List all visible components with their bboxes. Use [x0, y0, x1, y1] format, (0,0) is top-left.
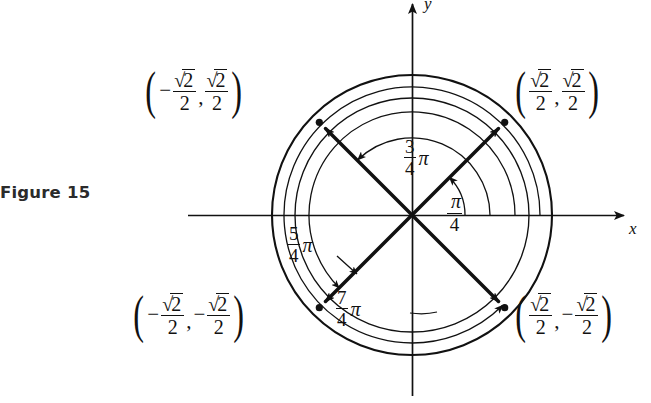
- angle-label-pi-over-4: π 4: [447, 190, 462, 234]
- fraction-q3-y: √2 2: [207, 292, 230, 338]
- ray-3pi-over-4: [326, 129, 413, 216]
- minus-sign-q3-x: −: [147, 304, 161, 325]
- radical-icon: √2: [206, 68, 227, 90]
- fraction-3-over-4: 3 4: [404, 137, 416, 179]
- paren-open-icon: (: [515, 293, 526, 338]
- fraction-q2-y: √2 2: [205, 68, 228, 114]
- terminal-point-3pi-over-4: [316, 119, 323, 126]
- radical-icon: √2: [208, 292, 229, 314]
- radical-icon: √2: [162, 292, 183, 314]
- coordinate-label-q1: ( √2 2 , √2 2 ): [512, 68, 602, 114]
- minus-sign-q4-y: −: [562, 304, 576, 325]
- fraction-q4-x: √2 2: [529, 292, 552, 338]
- minus-sign-q2-x: −: [159, 80, 173, 101]
- radical-icon: √2: [530, 292, 551, 314]
- unit-circle-diagram: [0, 0, 651, 403]
- paren-close-icon: ): [232, 69, 243, 114]
- axis-x-label: x: [629, 219, 637, 239]
- comma-q1: ,: [552, 87, 561, 108]
- paren-close-icon: ): [588, 69, 599, 114]
- fraction-q2-x: √2 2: [173, 68, 196, 114]
- pi-glyph: π: [448, 191, 461, 211]
- fraction-q4-y: √2 2: [575, 292, 598, 338]
- coordinate-label-q4: ( √2 2 ,− √2 2 ): [512, 292, 616, 338]
- pi-glyph: π: [300, 235, 313, 255]
- fraction-q3-x: √2 2: [161, 292, 184, 338]
- fraction-7-over-4: 7 4: [336, 288, 348, 330]
- coordinate-label-q2: (− √2 2 , √2 2 ): [142, 68, 246, 114]
- pi-glyph: π: [348, 299, 361, 319]
- comma-q3: ,: [184, 311, 193, 332]
- axis-y-label: y: [424, 0, 432, 14]
- paren-open-icon: (: [145, 69, 156, 114]
- paren-close-icon: ): [602, 293, 613, 338]
- leader-5pi-over-4: [337, 256, 357, 274]
- fraction-5-over-4: 5 4: [288, 224, 300, 266]
- figure-canvas: Figure 15: [0, 0, 651, 403]
- angle-label-3pi-over-4: 3 4 π: [404, 137, 429, 179]
- leader-7pi-over-4: [410, 312, 437, 314]
- comma-q4: ,: [552, 311, 561, 332]
- angle-label-7pi-over-4: 7 4 π: [336, 288, 361, 330]
- radical-icon: √2: [174, 68, 195, 90]
- angle-label-5pi-over-4: 5 4 π: [288, 224, 313, 266]
- terminal-point-pi-over-4: [501, 119, 508, 126]
- radical-icon: √2: [576, 292, 597, 314]
- paren-open-icon: (: [515, 69, 526, 114]
- fraction-q1-y: √2 2: [562, 68, 585, 114]
- fraction-pi-over-4: π 4: [447, 190, 462, 234]
- coordinate-label-q3: (− √2 2 ,− √2 2 ): [130, 292, 248, 338]
- fraction-q1-x: √2 2: [529, 68, 552, 114]
- terminal-point-5pi-over-4: [316, 304, 323, 311]
- radical-icon: √2: [563, 68, 584, 90]
- minus-sign-q3-y: −: [193, 304, 207, 325]
- paren-open-icon: (: [133, 293, 144, 338]
- comma-q2: ,: [196, 87, 205, 108]
- paren-close-icon: ): [234, 293, 245, 338]
- terminal-point-7pi-over-4: [501, 304, 508, 311]
- radical-icon: √2: [530, 68, 551, 90]
- pi-glyph: π: [416, 148, 429, 168]
